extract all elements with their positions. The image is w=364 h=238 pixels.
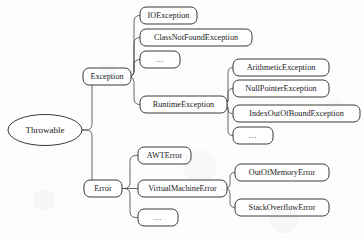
node-label-stackoverflowerror: StackOverflowError bbox=[249, 203, 316, 212]
throwable-hierarchy-diagram: ThrowableExceptionErrorIOExceptionClassN… bbox=[0, 0, 364, 238]
node-label-error-more: ... bbox=[154, 213, 162, 222]
node-label-runtimeexception-more: ... bbox=[249, 131, 257, 140]
edge-error-awterror bbox=[122, 156, 138, 189]
node-label-ioexception: IOException bbox=[148, 11, 190, 20]
node-label-runtimeexception: RuntimeException bbox=[153, 100, 214, 109]
node-label-virtualmachineerror: VirtualMachineError bbox=[148, 184, 217, 193]
node-label-exception: Exception bbox=[90, 72, 123, 81]
node-label-exception-more: ... bbox=[156, 55, 164, 64]
edge-error-more bbox=[122, 189, 138, 218]
node-layer: ThrowableExceptionErrorIOExceptionClassN… bbox=[8, 7, 360, 226]
node-label-nullpointerexception: NullPointerException bbox=[245, 84, 316, 93]
node-label-indexoutofboundexception: IndexOutOfBoundException bbox=[249, 109, 344, 118]
node-label-throwable: Throwable bbox=[26, 125, 65, 135]
node-label-classnotfoundexception: ClassNotFoundException bbox=[154, 33, 238, 42]
node-label-outofmemoryerror: OutOfMemoryError bbox=[249, 168, 316, 177]
node-label-error: Error bbox=[94, 184, 112, 193]
node-label-arithmeticexception: ArithmeticException bbox=[247, 63, 316, 72]
node-label-awterror: AWTError bbox=[147, 151, 183, 160]
diagram-page: ThrowableExceptionErrorIOExceptionClassN… bbox=[0, 0, 364, 238]
